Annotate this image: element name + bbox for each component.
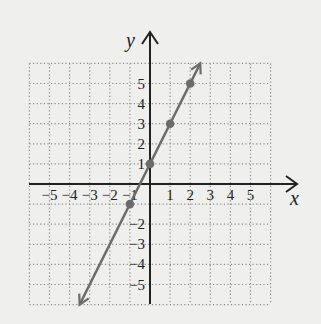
data-point [126,200,135,209]
y-tick-label: −3 [129,236,145,252]
x-tick-labels: −5−4−3−2−112345 [42,187,255,203]
x-tick-label: −3 [82,187,98,203]
y-tick-label: 4 [138,96,146,112]
y-tick-label: −2 [129,216,145,232]
y-tick-label: −5 [129,277,145,293]
y-tick-label: 2 [138,136,146,152]
x-axis-label: x [289,187,299,209]
x-tick-label: 2 [186,187,194,203]
x-tick-label: 5 [247,187,255,203]
data-point [166,119,175,128]
coordinate-plane: x y −5−4−3−2−112345 −5−4−3−212345 [0,0,321,324]
y-tick-label: 5 [138,76,146,92]
y-axis-label: y [124,29,135,52]
data-point [186,79,195,88]
axes: x y [29,29,299,304]
x-tick-label: −2 [102,187,118,203]
y-tick-label: 3 [138,116,146,132]
y-tick-label: 1 [138,156,146,172]
x-tick-label: −5 [42,187,58,203]
y-tick-label: −4 [129,256,145,272]
x-tick-label: 4 [227,187,235,203]
x-tick-label: 3 [207,187,215,203]
data-point [146,160,155,169]
x-tick-label: 1 [166,187,174,203]
x-tick-label: −4 [62,187,78,203]
